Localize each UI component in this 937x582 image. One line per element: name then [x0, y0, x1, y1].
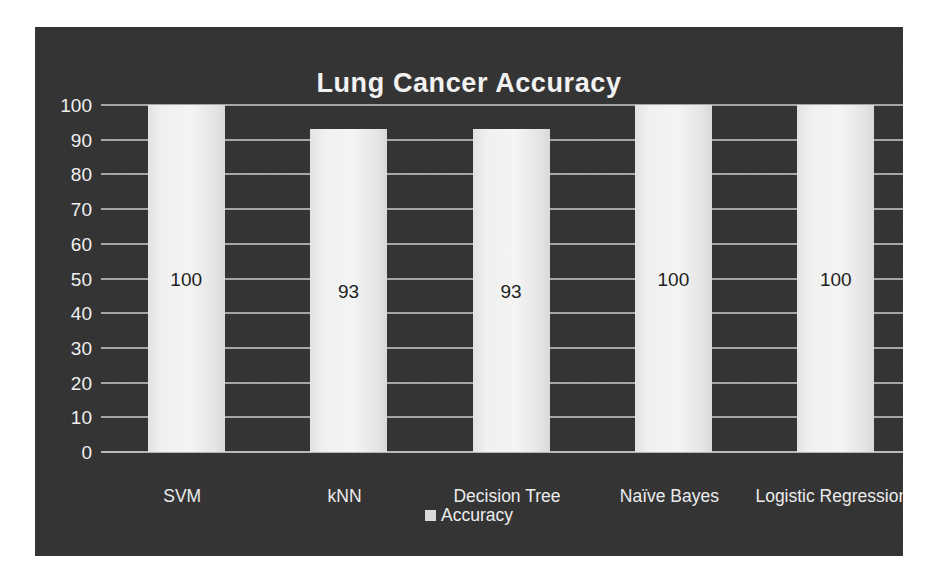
bar-value-label: 100 [797, 270, 874, 289]
plot-area: 1009080706050403020100 1009393100100 [101, 105, 903, 452]
bar-slot: 93 [473, 105, 550, 452]
y-tick-label-50: 50 [71, 269, 92, 288]
y-tick-label-60: 60 [71, 234, 92, 253]
category-label-decision-tree: Decision Tree [426, 485, 588, 507]
y-tick-label-90: 90 [71, 130, 92, 149]
bar-slot: 100 [635, 105, 712, 452]
bar-slot: 93 [310, 105, 387, 452]
bar-value-label: 100 [635, 270, 712, 289]
bar-knn[interactable]: 93 [310, 129, 387, 452]
chart-legend: Accuracy [35, 505, 903, 525]
y-tick-label-10: 10 [71, 408, 92, 427]
y-tick-label-40: 40 [71, 304, 92, 323]
y-tick-label-80: 80 [71, 165, 92, 184]
bar-slot: 100 [797, 105, 874, 452]
category-label-svm: SVM [101, 485, 263, 507]
category-label-knn: kNN [263, 485, 425, 507]
category-label-na-ve-bayes: Naïve Bayes [588, 485, 750, 507]
bar-logistic-regression[interactable]: 100 [797, 105, 874, 452]
bar-svm[interactable]: 100 [148, 105, 225, 452]
accuracy-legend-swatch-icon [425, 510, 436, 521]
category-label-logistic-regression: Logistic Regression [751, 485, 903, 507]
chart-title: Lung Cancer Accuracy [35, 68, 903, 98]
bar-value-label: 93 [473, 282, 550, 301]
y-tick-label-70: 70 [71, 200, 92, 219]
bar-decision-tree[interactable]: 93 [473, 129, 550, 452]
y-tick-label-20: 20 [71, 373, 92, 392]
bar-value-label: 100 [148, 270, 225, 289]
y-tick-label-100: 100 [60, 96, 92, 115]
bar-chart-figure: Lung Cancer Accuracy 1009080706050403020… [0, 0, 937, 582]
y-tick-label-0: 0 [81, 443, 92, 462]
legend-label-accuracy: Accuracy [441, 505, 513, 525]
chart-plot-panel: Lung Cancer Accuracy 1009080706050403020… [35, 27, 903, 556]
bar-slot: 100 [148, 105, 225, 452]
bars-layer: 1009393100100 [101, 105, 903, 452]
bar-value-label: 93 [310, 282, 387, 301]
y-tick-label-30: 30 [71, 338, 92, 357]
bar-na-ve-bayes[interactable]: 100 [635, 105, 712, 452]
